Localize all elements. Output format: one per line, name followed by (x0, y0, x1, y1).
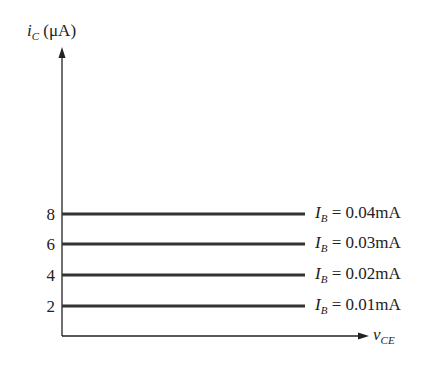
x-axis-label-sub: CE (381, 334, 395, 346)
series-label-ib-001: IB = 0.01mA (315, 296, 401, 316)
y-axis-label-unit: (μA) (43, 21, 76, 40)
y-tick-2: 2 (35, 298, 55, 315)
y-axis-arrow-icon (59, 47, 66, 58)
y-tick-8: 8 (35, 206, 55, 223)
series-label-ib-004: IB = 0.04mA (315, 204, 401, 224)
label-sub: B (321, 212, 328, 224)
y-tick-4: 4 (35, 267, 55, 284)
y-tick-6: 6 (35, 236, 55, 253)
x-axis-label-var: v (373, 325, 381, 344)
label-value: = 0.02mA (332, 264, 401, 283)
label-sub: B (321, 304, 328, 316)
x-axis-arrow-icon (358, 333, 369, 340)
label-value: = 0.03mA (332, 233, 401, 252)
series-label-ib-003: IB = 0.03mA (315, 234, 401, 254)
y-axis-label: iC (μA) (27, 22, 76, 42)
label-sub: B (321, 242, 328, 254)
y-axis-label-sub: C (32, 30, 39, 42)
label-value: = 0.01mA (332, 295, 401, 314)
label-sub: B (321, 273, 328, 285)
series-label-ib-002: IB = 0.02mA (315, 265, 401, 285)
x-axis-label: vCE (373, 326, 395, 346)
label-value: = 0.04mA (332, 203, 401, 222)
